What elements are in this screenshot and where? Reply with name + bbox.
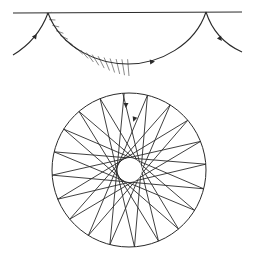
- outgoing-ray-arc: [206, 12, 242, 52]
- upper-panel: [13, 12, 242, 76]
- ray-chord: [64, 129, 179, 229]
- caustic-hatching: [46, 12, 129, 76]
- arrow-icon: [123, 103, 128, 108]
- inner-caustic-fill: [118, 158, 142, 182]
- hatch-mark: [110, 59, 115, 73]
- ray-chord: [70, 105, 170, 219]
- hatch-mark: [116, 59, 120, 74]
- ray-diagram: [0, 0, 254, 258]
- incoming-ray-arc: [13, 13, 48, 55]
- hatch-mark: [98, 56, 104, 68]
- hatch-mark: [128, 59, 129, 76]
- hatch-mark: [104, 58, 109, 71]
- hatch-mark: [92, 55, 99, 66]
- lower-panel: [52, 93, 206, 247]
- hatch-mark: [52, 25, 59, 27]
- hatch-mark: [122, 59, 125, 75]
- skip-ray-arc: [48, 12, 206, 64]
